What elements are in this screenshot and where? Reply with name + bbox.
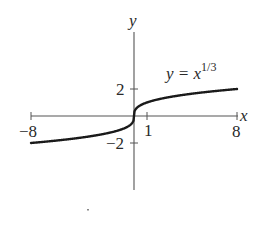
y-tick-label-2: 2 — [116, 80, 125, 99]
function-label: y = x1/3 — [164, 60, 216, 83]
x-tick-label-1: 1 — [144, 121, 153, 140]
function-label-exponent: 1/3 — [201, 60, 216, 74]
y-tick-label-neg2: −2 — [106, 134, 124, 153]
x-tick-label-8: 8 — [232, 122, 241, 141]
x-tick-label-neg8: −8 — [19, 122, 37, 141]
scan-artifact — [87, 209, 89, 211]
function-label-base: y = x — [164, 64, 202, 83]
function-graph: y x −8 1 8 2 −2 y = x1/3 — [0, 0, 260, 230]
y-axis-label: y — [127, 11, 137, 30]
